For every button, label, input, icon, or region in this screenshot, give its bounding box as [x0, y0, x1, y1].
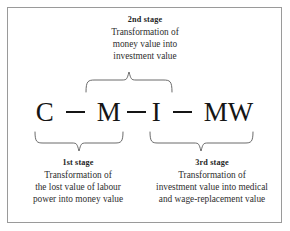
stage-1-line-3: power into money value: [8, 193, 148, 205]
stage-3-block: 3rd stage Transformation of investment v…: [142, 157, 282, 206]
formula-term-i: I: [152, 97, 161, 127]
stage-1-title: 1st stage: [8, 157, 148, 169]
stage-2-block: 2nd stage Transformation of money value …: [60, 14, 230, 63]
stage-2-line-2: money value into: [60, 38, 230, 50]
stage-3-title: 3rd stage: [142, 157, 282, 169]
formula-dash-2: [127, 111, 146, 113]
formula-term-mw: MW: [204, 97, 254, 127]
formula-dash-3: [173, 111, 192, 113]
formula-term-c: C: [36, 97, 54, 127]
formula-dash-1: [66, 111, 85, 113]
stage-2-line-3: investment value: [60, 50, 230, 62]
stage-1-line-1: Transformation of: [8, 169, 148, 181]
formula-term-m: M: [97, 97, 121, 127]
stage-1-line-2: the lost value of labour: [8, 181, 148, 193]
stage-3-line-3: and wage-replacement value: [142, 193, 282, 205]
stage-2-title: 2nd stage: [60, 14, 230, 26]
stage-2-line-1: Transformation of: [60, 26, 230, 38]
diagram-figure: 2nd stage Transformation of money value …: [0, 0, 290, 231]
formula-row: C M I MW: [7, 95, 282, 129]
stage-3-line-2: investment value into medical: [142, 181, 282, 193]
stage-3-line-1: Transformation of: [142, 169, 282, 181]
stage-1-block: 1st stage Transformation of the lost val…: [8, 157, 148, 206]
